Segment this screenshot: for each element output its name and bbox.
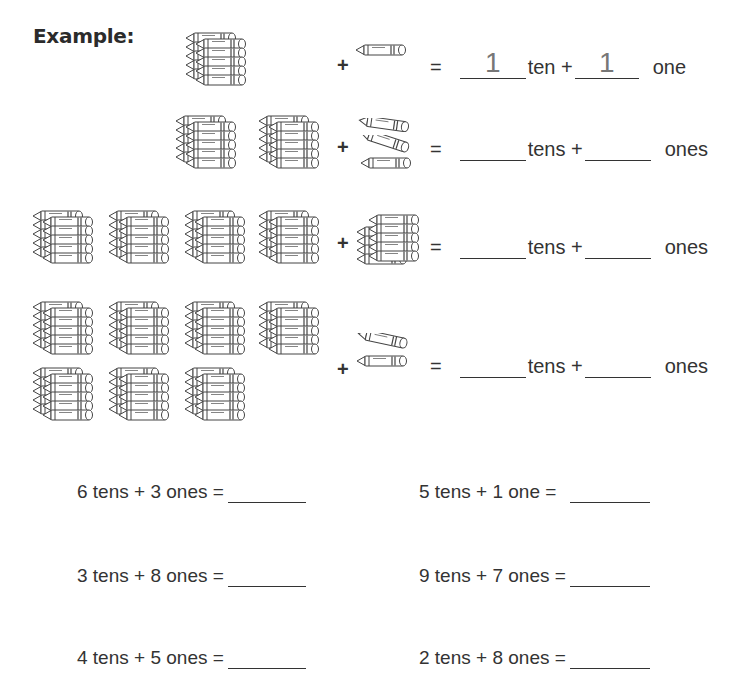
answer-blank[interactable] — [570, 482, 650, 503]
crayon-bundle-of-ten-icon — [108, 299, 174, 357]
tens-unit-label: tens + — [528, 236, 583, 259]
tens-unit-label: ten + — [528, 56, 573, 79]
ones-unit-label: one — [653, 56, 686, 79]
problem-1: 6 tens + 3 ones = — [77, 481, 306, 503]
problem-2: 5 tens + 1 one = — [419, 481, 650, 503]
crayon-bundle-of-ten-icon — [175, 113, 241, 171]
plus-sign: + — [337, 358, 349, 381]
row-1-equation: = tens + ones — [430, 134, 708, 161]
equals-sign: = — [430, 138, 442, 161]
example-equation: = 1 ten + 1 one — [430, 52, 686, 79]
equals-sign: = — [430, 56, 442, 79]
problem-text: 2 tens + 8 ones = — [419, 647, 566, 669]
problem-text: 5 tens + 1 one = — [419, 481, 556, 503]
answer-blank[interactable] — [228, 648, 306, 669]
crayon-bundle-of-ten-icon — [258, 299, 324, 357]
plus-sign: + — [337, 232, 349, 255]
ones-answer-blank[interactable] — [585, 232, 651, 259]
problem-5: 4 tens + 5 ones = — [77, 647, 306, 669]
crayon-bundle-of-ten-icon — [32, 208, 98, 266]
problem-3: 3 tens + 8 ones = — [77, 565, 306, 587]
ones-unit-label: ones — [665, 236, 708, 259]
ones-answer: 1 — [575, 49, 639, 77]
crayon-bundle-of-ten-icon — [184, 365, 250, 423]
single-crayon-icon — [356, 355, 412, 369]
tens-unit-label: tens + — [528, 355, 583, 378]
ones-unit-label: ones — [665, 355, 708, 378]
answer-blank[interactable] — [228, 566, 306, 587]
tens-answer-blank[interactable] — [460, 232, 526, 259]
tens-answer-blank[interactable] — [460, 134, 526, 161]
problem-6: 2 tens + 8 ones = — [419, 647, 650, 669]
single-crayon-icon — [360, 157, 416, 171]
tens-answer-blank[interactable]: 1 — [460, 52, 526, 79]
crayon-bundle-of-ten-icon — [184, 208, 250, 266]
tens-answer: 1 — [460, 49, 526, 77]
ones-answer-blank[interactable] — [585, 134, 651, 161]
problem-text: 9 tens + 7 ones = — [419, 565, 566, 587]
row-2-equation: = tens + ones — [430, 232, 708, 259]
plus-sign: + — [337, 54, 349, 77]
crayon-bundle-of-ten-icon — [258, 113, 324, 171]
ones-answer-blank[interactable] — [585, 351, 651, 378]
answer-blank[interactable] — [570, 648, 650, 669]
ones-answer-blank[interactable]: 1 — [575, 52, 639, 79]
single-crayon-icon — [355, 44, 411, 58]
crayon-bundle-of-ten-icon — [108, 208, 174, 266]
equals-sign: = — [430, 355, 442, 378]
row-3-equation: = tens + ones — [430, 351, 708, 378]
answer-blank[interactable] — [228, 482, 306, 503]
crayon-bundle-of-ten-icon — [185, 30, 251, 88]
problem-4: 9 tens + 7 ones = — [419, 565, 650, 587]
single-crayon-icon — [358, 135, 414, 153]
single-crayon-icon — [358, 118, 414, 132]
crayon-bundle-of-ten-icon — [184, 299, 250, 357]
plus-sign: + — [337, 136, 349, 159]
single-crayon-icon — [356, 333, 414, 353]
equals-sign: = — [430, 236, 442, 259]
problem-text: 4 tens + 5 ones = — [77, 647, 224, 669]
example-label: Example: — [33, 24, 134, 48]
crayon-group-of-nine-icon — [356, 206, 426, 270]
crayon-bundle-of-ten-icon — [32, 299, 98, 357]
tens-unit-label: tens + — [528, 138, 583, 161]
problem-text: 3 tens + 8 ones = — [77, 565, 224, 587]
crayon-bundle-of-ten-icon — [258, 208, 324, 266]
crayon-bundle-of-ten-icon — [32, 365, 98, 423]
problem-text: 6 tens + 3 ones = — [77, 481, 224, 503]
crayon-bundle-of-ten-icon — [108, 365, 174, 423]
ones-unit-label: ones — [665, 138, 708, 161]
answer-blank[interactable] — [570, 566, 650, 587]
tens-answer-blank[interactable] — [460, 351, 526, 378]
